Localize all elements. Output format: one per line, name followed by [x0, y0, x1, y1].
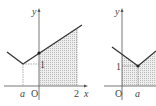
left-graph: y x O a 1 2 — [4, 6, 89, 100]
right-y-arrow-icon — [121, 8, 124, 12]
left-x-label: x — [83, 88, 89, 99]
diagram: y x O a 1 2 y O a 1 — [0, 0, 156, 106]
right-a-label: a — [135, 88, 140, 99]
right-shaded-region — [122, 52, 156, 86]
left-y-arrow-icon — [38, 8, 41, 12]
right-vertex-marker — [136, 64, 139, 67]
left-a-label: a — [20, 88, 25, 99]
right-y-label: y — [114, 6, 120, 17]
right-one-label: 1 — [116, 61, 121, 72]
left-two-label: 2 — [74, 88, 79, 99]
left-shaded-region — [39, 29, 77, 86]
left-y-label: y — [31, 6, 37, 17]
right-origin-label: O — [115, 88, 122, 99]
right-graph: y O a 1 — [104, 6, 156, 100]
left-origin-label: O — [31, 88, 38, 99]
left-point-marker — [37, 51, 40, 54]
left-one-label: 1 — [40, 59, 45, 70]
